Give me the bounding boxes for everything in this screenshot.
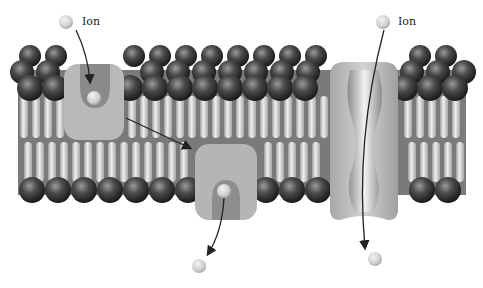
ion-outside-left [59,15,73,29]
carrier-protein-open-inside [195,144,257,220]
ion-inside-right [368,252,382,266]
carrier-protein-open-outside [64,64,124,140]
ion-outside-right [376,15,390,29]
membrane-diagram [0,0,483,288]
ion-inside-left [192,259,206,273]
ion-label-left: Ion [82,15,100,28]
ion-label-right: Ion [398,15,416,28]
